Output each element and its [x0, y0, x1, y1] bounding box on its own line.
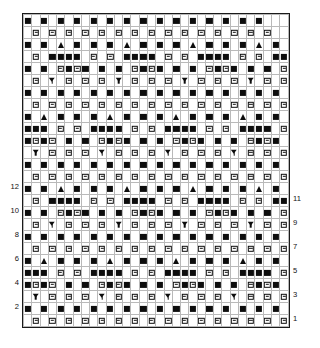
stitch-cell[interactable]	[139, 27, 147, 39]
stitch-cell[interactable]	[172, 75, 180, 87]
stitch-cell[interactable]	[48, 267, 56, 279]
stitch-cell[interactable]	[247, 267, 255, 279]
stitch-cell[interactable]	[65, 51, 73, 63]
stitch-cell[interactable]	[90, 243, 98, 255]
stitch-cell[interactable]	[73, 111, 81, 123]
stitch-cell[interactable]	[205, 87, 213, 99]
stitch-cell[interactable]	[280, 63, 288, 75]
stitch-cell[interactable]	[156, 267, 164, 279]
stitch-cell[interactable]	[65, 123, 73, 135]
stitch-cell[interactable]	[24, 39, 32, 51]
stitch-cell[interactable]	[181, 63, 189, 75]
stitch-cell[interactable]	[123, 243, 131, 255]
stitch-cell[interactable]	[247, 183, 255, 195]
stitch-cell[interactable]	[139, 291, 147, 303]
stitch-cell[interactable]	[57, 51, 65, 63]
stitch-cell[interactable]	[147, 99, 155, 111]
stitch-cell[interactable]	[123, 27, 131, 39]
stitch-cell[interactable]	[57, 123, 65, 135]
stitch-cell[interactable]	[271, 111, 279, 123]
stitch-cell[interactable]	[181, 267, 189, 279]
stitch-cell[interactable]	[247, 39, 255, 51]
stitch-cell[interactable]	[98, 123, 106, 135]
stitch-cell[interactable]	[214, 183, 222, 195]
stitch-cell[interactable]	[255, 171, 263, 183]
stitch-cell[interactable]	[247, 147, 255, 159]
stitch-cell[interactable]	[48, 255, 56, 267]
stitch-cell[interactable]	[238, 303, 246, 315]
stitch-cell[interactable]	[230, 159, 238, 171]
stitch-cell[interactable]	[139, 63, 147, 75]
stitch-cell[interactable]	[147, 231, 155, 243]
stitch-cell[interactable]	[247, 135, 255, 147]
stitch-cell[interactable]	[57, 27, 65, 39]
stitch-cell[interactable]	[255, 183, 263, 195]
stitch-cell[interactable]	[57, 195, 65, 207]
stitch-cell[interactable]	[263, 255, 271, 267]
stitch-cell[interactable]	[222, 39, 230, 51]
stitch-cell[interactable]	[81, 87, 89, 99]
stitch-cell[interactable]	[280, 15, 288, 27]
stitch-cell[interactable]	[90, 183, 98, 195]
stitch-cell[interactable]	[24, 291, 32, 303]
stitch-cell[interactable]	[32, 255, 40, 267]
stitch-cell[interactable]	[131, 123, 139, 135]
stitch-cell[interactable]	[271, 231, 279, 243]
stitch-cell[interactable]	[65, 291, 73, 303]
stitch-cell[interactable]	[280, 75, 288, 87]
stitch-cell[interactable]	[114, 267, 122, 279]
stitch-cell[interactable]	[164, 147, 172, 159]
stitch-cell[interactable]	[205, 291, 213, 303]
stitch-cell[interactable]	[205, 123, 213, 135]
stitch-cell[interactable]	[90, 123, 98, 135]
stitch-cell[interactable]	[263, 15, 271, 27]
stitch-cell[interactable]	[48, 279, 56, 291]
stitch-cell[interactable]	[81, 195, 89, 207]
stitch-cell[interactable]	[205, 195, 213, 207]
stitch-cell[interactable]	[139, 255, 147, 267]
stitch-cell[interactable]	[114, 231, 122, 243]
stitch-cell[interactable]	[263, 63, 271, 75]
stitch-cell[interactable]	[98, 195, 106, 207]
stitch-cell[interactable]	[57, 231, 65, 243]
stitch-cell[interactable]	[222, 171, 230, 183]
stitch-cell[interactable]	[222, 87, 230, 99]
stitch-cell[interactable]	[172, 99, 180, 111]
stitch-cell[interactable]	[164, 135, 172, 147]
stitch-cell[interactable]	[57, 63, 65, 75]
stitch-cell[interactable]	[32, 183, 40, 195]
stitch-cell[interactable]	[57, 159, 65, 171]
stitch-cell[interactable]	[197, 123, 205, 135]
stitch-cell[interactable]	[40, 207, 48, 219]
stitch-cell[interactable]	[98, 291, 106, 303]
stitch-cell[interactable]	[81, 279, 89, 291]
stitch-cell[interactable]	[247, 315, 255, 327]
stitch-cell[interactable]	[156, 303, 164, 315]
stitch-cell[interactable]	[189, 231, 197, 243]
stitch-cell[interactable]	[164, 15, 172, 27]
stitch-cell[interactable]	[57, 243, 65, 255]
stitch-cell[interactable]	[147, 147, 155, 159]
stitch-cell[interactable]	[238, 63, 246, 75]
stitch-cell[interactable]	[98, 267, 106, 279]
stitch-cell[interactable]	[280, 303, 288, 315]
stitch-cell[interactable]	[172, 159, 180, 171]
stitch-cell[interactable]	[98, 75, 106, 87]
stitch-cell[interactable]	[164, 183, 172, 195]
stitch-cell[interactable]	[147, 207, 155, 219]
stitch-cell[interactable]	[65, 255, 73, 267]
stitch-cell[interactable]	[247, 27, 255, 39]
stitch-cell[interactable]	[214, 255, 222, 267]
stitch-cell[interactable]	[181, 39, 189, 51]
stitch-cell[interactable]	[57, 315, 65, 327]
stitch-cell[interactable]	[40, 219, 48, 231]
stitch-cell[interactable]	[48, 219, 56, 231]
stitch-cell[interactable]	[230, 267, 238, 279]
stitch-cell[interactable]	[172, 291, 180, 303]
stitch-cell[interactable]	[139, 183, 147, 195]
stitch-cell[interactable]	[90, 51, 98, 63]
stitch-cell[interactable]	[205, 159, 213, 171]
stitch-cell[interactable]	[57, 99, 65, 111]
stitch-cell[interactable]	[214, 315, 222, 327]
stitch-cell[interactable]	[189, 15, 197, 27]
